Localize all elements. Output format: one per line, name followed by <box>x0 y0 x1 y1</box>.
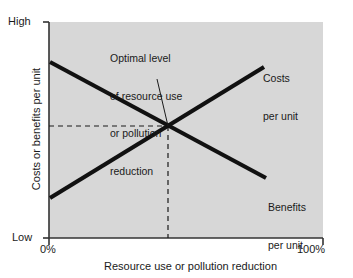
y-axis-high-label: High <box>8 15 31 28</box>
y-axis-low-label: Low <box>12 231 32 244</box>
optimal-annotation-line-4: reduction <box>110 165 182 178</box>
economics-cost-benefit-figure: High Low 0% 100% Costs or benefits per u… <box>0 0 353 278</box>
optimal-annotation-line-3: or pollution <box>110 127 182 140</box>
optimal-annotation-line-2: of resource use <box>110 90 182 103</box>
optimal-annotation-line-1: Optimal level <box>110 52 182 65</box>
optimal-level-annotation: Optimal level of resource use or polluti… <box>110 27 182 202</box>
y-axis-title: Costs or benefits per unit <box>30 49 42 209</box>
benefits-label-line-2: per unit <box>268 239 306 252</box>
benefits-per-unit-label: Benefits per unit <box>268 176 306 276</box>
benefits-label-line-1: Benefits <box>268 201 306 214</box>
x-axis-min-label: 0% <box>40 243 56 256</box>
costs-per-unit-label: Costs per unit <box>263 47 298 147</box>
costs-label-line-2: per unit <box>263 110 298 123</box>
costs-label-line-1: Costs <box>263 72 298 85</box>
x-axis-title: Resource use or pollution reduction <box>104 260 277 273</box>
